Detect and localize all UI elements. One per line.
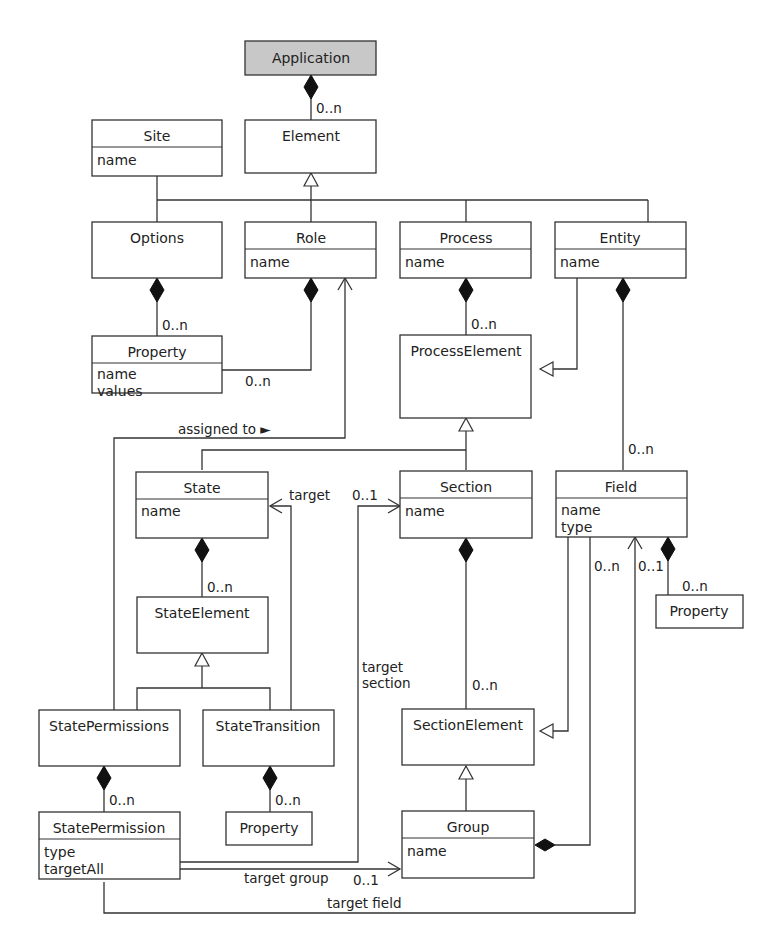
multiplicity-label: 0..n xyxy=(275,792,301,808)
class-name: StatePermission xyxy=(53,820,166,836)
multiplicity-label: 0..n xyxy=(245,373,271,389)
class-options[interactable]: Options xyxy=(92,222,222,278)
composition-diamond-icon xyxy=(459,538,473,562)
class-attribute: name xyxy=(405,503,445,519)
class-application[interactable]: Application xyxy=(245,41,376,75)
class-attribute: name xyxy=(97,152,137,168)
class-role[interactable]: Role name xyxy=(245,222,376,278)
class-name: ProcessElement xyxy=(410,343,522,359)
class-name: Process xyxy=(439,230,492,246)
class-process-element[interactable]: ProcessElement xyxy=(400,335,531,418)
association-label-target-field: target field xyxy=(327,895,401,911)
multiplicity-label: 0..n xyxy=(207,579,233,595)
class-site[interactable]: Site name xyxy=(92,120,222,176)
generalization-triangle-icon xyxy=(304,173,318,186)
edge-stateelement-children xyxy=(137,688,270,710)
class-attribute: name xyxy=(561,502,601,518)
edge-field-group xyxy=(555,537,590,845)
uml-class-diagram: Application Element Site name Options Ro… xyxy=(0,0,777,947)
class-name: Role xyxy=(296,230,326,246)
association-label-target-section: target xyxy=(362,659,403,675)
class-attribute: name xyxy=(560,254,600,270)
class-state-element[interactable]: StateElement xyxy=(137,597,268,653)
multiplicity-label: 0..n xyxy=(682,578,708,594)
generalization-triangle-icon xyxy=(459,418,473,431)
class-state-permissions[interactable]: StatePermissions xyxy=(39,710,180,766)
class-attribute: targetAll xyxy=(44,861,104,877)
class-name: Site xyxy=(144,128,171,144)
multiplicity-label: 0..n xyxy=(594,558,620,574)
composition-diamond-icon xyxy=(459,278,473,302)
multiplicity-label: 0..n xyxy=(109,792,135,808)
class-attribute: name xyxy=(405,254,445,270)
class-state-transition[interactable]: StateTransition xyxy=(203,710,334,766)
class-attribute: type xyxy=(561,519,592,535)
multiplicity-label: 0..n xyxy=(316,100,342,116)
class-name: Element xyxy=(282,128,340,144)
edge-statetransition-state xyxy=(270,506,291,710)
class-group[interactable]: Group name xyxy=(402,811,534,878)
generalization-triangle-icon xyxy=(540,362,553,376)
class-options-property[interactable]: Property name values xyxy=(92,336,222,399)
class-attribute: name xyxy=(141,503,181,519)
class-attribute: type xyxy=(44,844,75,860)
multiplicity-label: 0..n xyxy=(628,441,654,457)
class-field-property[interactable]: Property xyxy=(656,595,743,628)
class-section[interactable]: Section name xyxy=(400,471,532,538)
class-name: Property xyxy=(127,344,186,360)
generalization-triangle-icon xyxy=(459,766,473,779)
generalization-triangle-icon xyxy=(540,724,553,738)
class-state[interactable]: State name xyxy=(136,472,268,538)
class-name: Property xyxy=(239,820,298,836)
class-name: Property xyxy=(669,603,728,619)
class-name: Entity xyxy=(600,230,641,246)
composition-diamond-icon xyxy=(263,766,277,790)
composition-diamond-icon xyxy=(97,766,111,790)
edge-field-sectionelement xyxy=(540,537,568,731)
composition-diamond-icon xyxy=(304,278,318,302)
class-name: Group xyxy=(447,819,490,835)
class-name: SectionElement xyxy=(413,717,523,733)
class-transition-property[interactable]: Property xyxy=(226,812,312,845)
class-name: Options xyxy=(130,230,184,246)
multiplicity-label: 0..n xyxy=(471,316,497,332)
composition-diamond-icon xyxy=(616,278,630,302)
composition-diamond-icon xyxy=(535,839,555,851)
composition-diamond-icon xyxy=(195,538,209,562)
edge-role-property xyxy=(222,278,311,370)
composition-diamond-icon xyxy=(304,75,318,99)
class-entity[interactable]: Entity name xyxy=(555,222,686,278)
multiplicity-label: 0..n xyxy=(162,317,188,333)
multiplicity-label: 0..1 xyxy=(638,558,664,574)
class-field[interactable]: Field name type xyxy=(556,471,687,537)
association-label-target-group: target group xyxy=(244,870,329,886)
edge-state-processelement xyxy=(202,450,466,470)
class-element[interactable]: Element xyxy=(245,120,376,173)
composition-diamond-icon xyxy=(150,278,164,302)
generalization-triangle-icon xyxy=(195,653,209,666)
class-name: StateElement xyxy=(154,605,250,621)
class-name: State xyxy=(183,480,220,496)
association-label-assigned-to: assigned to ► xyxy=(178,421,271,437)
class-name: StateTransition xyxy=(216,718,321,734)
class-state-permission[interactable]: StatePermission type targetAll xyxy=(39,812,180,879)
multiplicity-label: 0..n xyxy=(472,677,498,693)
association-label-target: target xyxy=(289,487,330,503)
edge-statepermission-field xyxy=(104,537,635,913)
class-attribute: name xyxy=(97,366,137,382)
edge-entity-processelement xyxy=(540,278,577,369)
class-attribute: name xyxy=(407,843,447,859)
class-name: Section xyxy=(440,479,492,495)
multiplicity-label: 0..1 xyxy=(353,872,379,888)
multiplicity-label: 0..1 xyxy=(352,487,378,503)
class-name: StatePermissions xyxy=(49,718,169,734)
class-attribute: values xyxy=(97,383,143,399)
class-process[interactable]: Process name xyxy=(400,222,531,278)
association-label-target-section: section xyxy=(362,675,411,691)
class-name: Field xyxy=(605,479,637,495)
class-section-element[interactable]: SectionElement xyxy=(402,709,534,765)
class-name: Application xyxy=(272,50,350,66)
class-attribute: name xyxy=(250,254,290,270)
